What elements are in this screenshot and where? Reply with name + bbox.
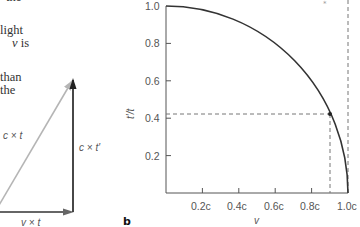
corner-mark: * — [323, 0, 327, 8]
label-c-times-t-prime: c × t′ — [79, 142, 101, 153]
y-axis-title: t′/t — [125, 108, 136, 119]
x-axis-title: v — [254, 215, 260, 226]
x-tick-label-0.2c: 0.2c — [191, 200, 211, 212]
y-ticks — [166, 43, 171, 155]
x-tick-label-1.0c: 1.0c — [337, 200, 357, 212]
y-tick-label-1.0: 1.0 — [145, 0, 160, 12]
time-dilation-curve — [166, 6, 348, 193]
label-v-times-t: v × t — [21, 217, 41, 227]
x-tick-label-0.6c: 0.6c — [264, 200, 284, 212]
vector-triangle: c × t c × t′ v × t — [0, 78, 101, 227]
panel-label-b: b — [123, 215, 131, 227]
hypotenuse-arrow — [0, 81, 72, 212]
y-tick-label-0.2: 0.2 — [145, 150, 160, 162]
x-ticks — [202, 188, 311, 193]
y-tick-label-0.6: 0.6 — [145, 75, 160, 87]
highlight-point — [328, 112, 332, 116]
y-tick-label-0.8: 0.8 — [145, 37, 160, 49]
x-tick-label-0.4c: 0.4c — [227, 200, 247, 212]
y-tick-label-0.4: 0.4 — [145, 112, 160, 124]
figure-canvas: c × t c × t′ v × t b 1.0 0.8 0.6 0.4 0.2… — [0, 0, 360, 227]
x-tick-label-0.8c: 0.8c — [300, 200, 320, 212]
label-c-times-t: c × t — [3, 130, 23, 141]
time-dilation-plot: 1.0 0.8 0.6 0.4 0.2 0.2c 0.4c 0.6c 0.8c … — [125, 0, 357, 226]
